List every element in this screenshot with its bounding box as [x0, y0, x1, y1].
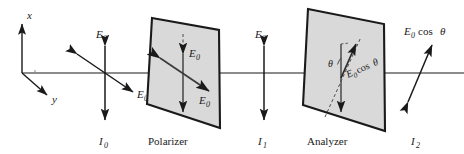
transmitted-field-label: E 0 cos θ: [403, 25, 446, 40]
analyzer-angle-label: θ: [328, 58, 333, 69]
between-intensity-label: I 1: [257, 135, 267, 150]
between-light-group: E 0 I 1: [254, 28, 267, 150]
svg-text:1: 1: [263, 141, 267, 150]
polarizer-caption: Polarizer: [148, 135, 188, 147]
analyzer-caption: Analyzer: [307, 135, 348, 147]
svg-text:E: E: [198, 94, 206, 106]
coordinate-axes: x y: [22, 9, 57, 105]
origin-dot: [34, 70, 35, 71]
incident-intensity-label: I 0: [98, 135, 108, 150]
y-axis-arrow: [22, 73, 47, 95]
svg-text:0: 0: [262, 34, 266, 43]
svg-text:0: 0: [104, 141, 108, 150]
svg-text:E: E: [188, 47, 196, 59]
svg-text:2: 2: [416, 141, 420, 150]
polarization-diagram-figure: x y E 0 E 0 I 0: [0, 0, 464, 154]
diagram-canvas: x y E 0 E 0 I 0: [0, 0, 464, 154]
svg-text:E: E: [136, 88, 144, 100]
x-axis-label: x: [26, 9, 32, 21]
incident-light-group: E 0 E 0 I 0: [77, 28, 148, 150]
transmitted-light-group: E 0 cos θ I 2: [403, 25, 446, 150]
between-field-label: E 0: [254, 28, 266, 43]
transmitted-intensity-label: I 2: [410, 135, 420, 150]
svg-text:0: 0: [196, 53, 200, 62]
svg-text:cos: cos: [418, 25, 433, 37]
svg-text:0: 0: [411, 31, 415, 40]
y-axis-label: y: [51, 93, 57, 105]
svg-text:E: E: [254, 28, 262, 40]
svg-text:E: E: [403, 25, 411, 37]
svg-text:θ: θ: [440, 25, 446, 37]
incident-vertical-field-label: E 0: [95, 28, 107, 43]
svg-text:0: 0: [103, 34, 107, 43]
svg-text:0: 0: [206, 100, 210, 109]
polarizer-plate-group: E 0 E 0 Polarizer: [147, 18, 220, 147]
analyzer-plate-group: θ E 0 cos θ Analyzer: [303, 9, 385, 147]
svg-text:E: E: [95, 28, 103, 40]
